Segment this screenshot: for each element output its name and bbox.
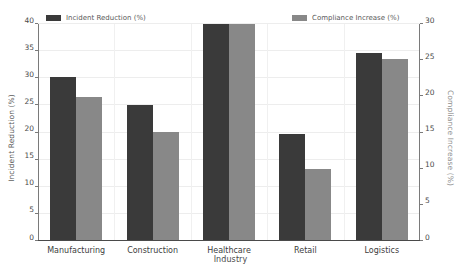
gridline-vertical (114, 24, 115, 241)
x-axis-title: Industry (0, 255, 461, 264)
y-tick-label-left: 20 (24, 125, 34, 133)
y-tick-label-left: 15 (24, 152, 34, 160)
legend-incident-reduction: Incident Reduction (%) (46, 14, 146, 22)
x-tick-label: Manufacturing (47, 246, 105, 255)
y-tick-mark-left (35, 50, 38, 51)
x-tick-label: Healthcare (207, 246, 251, 255)
y-tick-label-left: 30 (24, 71, 34, 79)
x-tick-label: Construction (127, 246, 178, 255)
legend-swatch-icon (46, 15, 61, 21)
gridline-vertical (344, 24, 345, 241)
y-tick-mark-right (420, 59, 423, 60)
y-axis-right-title: Compliance Increase (%) (447, 90, 456, 186)
y-tick-label-right: 10 (425, 161, 435, 169)
y-tick-label-left: 25 (24, 98, 34, 106)
gridline-vertical (267, 24, 268, 241)
y-tick-mark-left (35, 23, 38, 24)
y-tick-label-left: 40 (24, 17, 34, 25)
bar-incident-reduction (279, 134, 305, 240)
y-tick-mark-right (420, 168, 423, 169)
y-tick-label-right: 20 (425, 89, 435, 97)
y-tick-mark-right (420, 132, 423, 133)
bar-incident-reduction (203, 24, 229, 240)
y-tick-label-left: 5 (29, 207, 34, 215)
x-tick-label: Retail (294, 246, 317, 255)
bar-incident-reduction (356, 53, 382, 240)
bar-incident-reduction (50, 77, 76, 240)
y-tick-label-left: 0 (29, 234, 34, 242)
bar-compliance-increase (76, 97, 102, 240)
y-tick-mark-right (420, 204, 423, 205)
x-tick-label: Logistics (364, 246, 399, 255)
axis-spine-bottom (38, 240, 420, 241)
y-tick-mark-left (35, 186, 38, 187)
bar-compliance-increase (229, 24, 255, 240)
y-axis-left-title: Incident Reduction (%) (7, 94, 16, 182)
y-tick-mark-left (35, 240, 38, 241)
y-tick-label-left: 10 (24, 180, 34, 188)
y-tick-mark-left (35, 159, 38, 160)
plot-area: 0510152025303540 051015202530 Manufactur… (38, 24, 420, 241)
axis-spine-right (419, 24, 420, 241)
y-tick-mark-left (35, 104, 38, 105)
y-tick-label-right: 25 (425, 53, 435, 61)
y-tick-mark-right (420, 95, 423, 96)
y-tick-mark-left (35, 213, 38, 214)
bar-incident-reduction (127, 105, 153, 240)
chart-figure: 0510152025303540 051015202530 Manufactur… (0, 0, 461, 276)
bar-compliance-increase (305, 169, 331, 240)
y-tick-label-left: 35 (24, 44, 34, 52)
legend-swatch-icon (292, 15, 307, 21)
y-tick-mark-left (35, 132, 38, 133)
y-tick-label-right: 5 (425, 198, 430, 206)
gridline-vertical (191, 24, 192, 241)
bar-compliance-increase (382, 59, 408, 240)
y-tick-mark-right (420, 23, 423, 24)
y-tick-mark-right (420, 240, 423, 241)
y-tick-mark-left (35, 77, 38, 78)
y-tick-label-right: 15 (425, 125, 435, 133)
y-tick-label-right: 0 (425, 234, 430, 242)
bar-compliance-increase (153, 132, 179, 241)
y-tick-label-right: 30 (425, 17, 435, 25)
legend-label: Incident Reduction (%) (66, 14, 146, 22)
legend-compliance-increase: Compliance Increase (%) (292, 14, 399, 22)
axis-spine-left (38, 24, 39, 241)
legend-label: Compliance Increase (%) (312, 14, 399, 22)
